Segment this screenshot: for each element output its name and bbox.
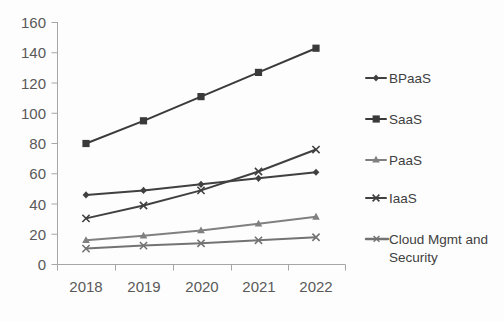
x-axis: [58, 265, 346, 271]
legend-item-paas[interactable]: PaaS: [366, 153, 422, 168]
legend-label: BPaaS: [389, 71, 431, 86]
data-point-marker: [312, 45, 319, 52]
y-tick-label: 140: [21, 44, 46, 61]
series-layer: [82, 45, 320, 253]
series-cloud-mgmt-and-security: [82, 234, 319, 253]
y-axis: [52, 22, 58, 265]
data-point-marker: [255, 175, 262, 182]
x-tick-label: 2019: [127, 278, 160, 295]
legend-item-cloud-mgmt-and-security[interactable]: Cloud Mgmt and Security: [366, 232, 488, 266]
data-point-marker: [140, 187, 147, 194]
line-chart: 160 140 120 100 80 60 40 20 0 2018 2019 …: [0, 0, 504, 321]
x-tick-label: 2018: [69, 278, 102, 295]
y-tick-labels: 160 140 120 100 80 60 40 20 0: [21, 14, 46, 273]
series-bpaas: [83, 169, 320, 199]
legend-item-bpaas[interactable]: BPaaS: [366, 71, 431, 86]
data-point-marker: [83, 191, 90, 198]
y-tick-label: 0: [38, 256, 46, 273]
x-tick-label: 2021: [242, 278, 275, 295]
y-tick-label: 80: [29, 135, 46, 152]
legend-item-saas[interactable]: SaaS: [366, 112, 422, 127]
data-point-marker: [140, 117, 147, 124]
chart-canvas: 160 140 120 100 80 60 40 20 0 2018 2019 …: [0, 0, 504, 321]
data-point-marker: [82, 140, 89, 147]
y-tick-label: 40: [29, 196, 46, 213]
y-tick-label: 60: [29, 165, 46, 182]
y-tick-label: 160: [21, 14, 46, 31]
data-point-marker: [197, 93, 204, 100]
legend-label: PaaS: [389, 153, 422, 168]
x-tick-label: 2020: [185, 278, 218, 295]
legend-label: IaaS: [389, 191, 417, 206]
y-tick-label: 120: [21, 75, 46, 92]
legend: BPaaS SaaS PaaS IaaS Cloud Mgmt and: [366, 71, 488, 266]
legend-item-iaas[interactable]: IaaS: [366, 191, 417, 206]
series-saas: [82, 45, 319, 147]
y-tick-label: 100: [21, 105, 46, 122]
legend-label: Cloud Mgmt and: [389, 232, 488, 247]
legend-label: SaaS: [389, 112, 422, 127]
y-tick-label: 20: [29, 226, 46, 243]
legend-label-line2: Security: [389, 250, 438, 265]
data-point-marker: [198, 181, 205, 188]
data-point-marker: [255, 69, 262, 76]
x-tick-label: 2022: [299, 278, 332, 295]
x-tick-labels: 2018 2019 2020 2021 2022: [69, 278, 332, 295]
data-point-marker: [313, 169, 320, 176]
